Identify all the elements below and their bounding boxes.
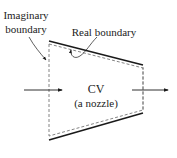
real-boundary-bottom-wall [49, 113, 143, 140]
imaginary-boundary-label-line2: boundary [5, 23, 47, 35]
real-boundary-top-wall [49, 41, 143, 65]
real-boundary-label: Real boundary [72, 26, 137, 38]
cv-sublabel: (a nozzle) [74, 97, 118, 110]
imaginary-boundary-label-line1: Imaginary [3, 9, 49, 21]
cv-label: CV [88, 82, 105, 96]
imaginary-boundary-pointer [29, 37, 46, 60]
nozzle-control-volume-diagram: Imaginary boundary Real boundary CV (a n… [0, 0, 177, 158]
